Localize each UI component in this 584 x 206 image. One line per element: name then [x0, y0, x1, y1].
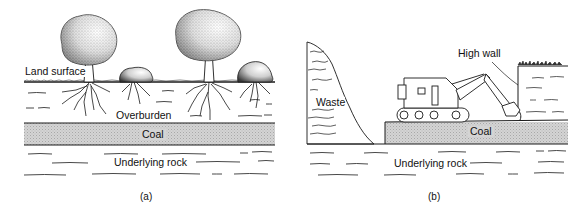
waste-pile: [307, 42, 374, 144]
panel-b: [307, 42, 568, 175]
high-wall: [492, 61, 568, 120]
excavator-icon: [397, 74, 520, 122]
label-underlying-rock-b: Underlying rock: [392, 158, 469, 169]
label-overburden: Overburden: [116, 110, 171, 121]
label-underlying-rock-a: Underlying rock: [112, 157, 189, 168]
label-high-wall: High wall: [458, 48, 501, 59]
label-coal-a: Coal: [140, 129, 166, 140]
strip-mining-diagram: [0, 0, 584, 206]
caption-b: (b): [428, 192, 440, 202]
caption-a: (a): [140, 192, 152, 202]
panel-a: [24, 10, 275, 175]
label-coal-b: Coal: [468, 126, 494, 137]
bush-icon: [238, 62, 273, 82]
bush-icon: [120, 67, 153, 82]
tree-icon: [176, 10, 241, 82]
label-land-surface: Land surface: [24, 66, 87, 77]
label-waste: Waste: [316, 97, 345, 108]
